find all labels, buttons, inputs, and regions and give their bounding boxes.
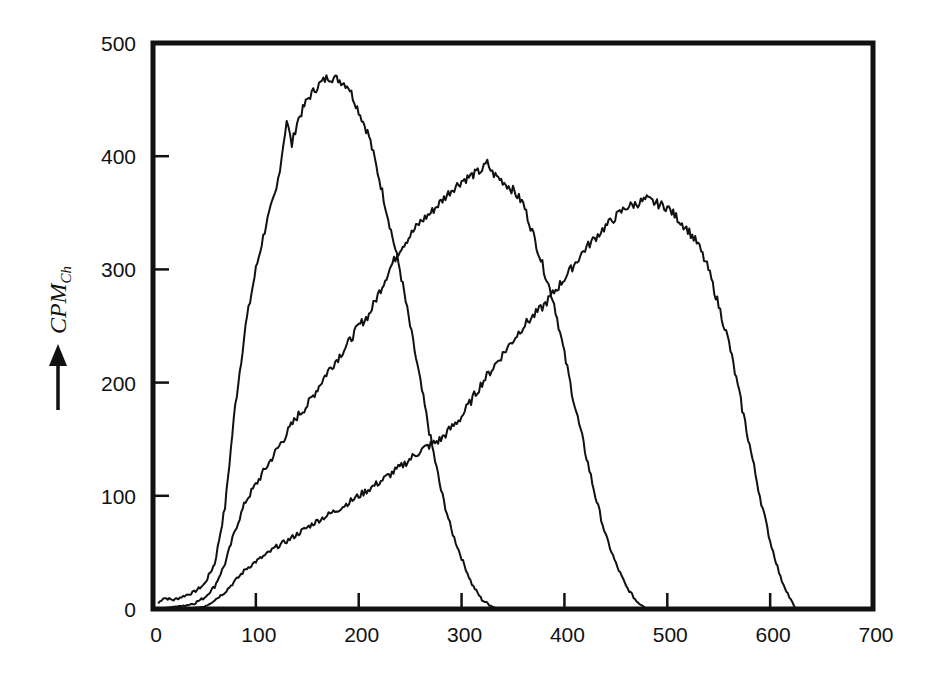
x-tick-label: 200 bbox=[344, 623, 379, 646]
y-tick-label: 300 bbox=[101, 258, 136, 281]
series-line-2 bbox=[158, 160, 647, 609]
y-axis-label-subscript: Ch bbox=[58, 266, 74, 284]
y-tick-label: 200 bbox=[101, 372, 136, 395]
chart: 0100200300400500600700 0100200300400500 … bbox=[0, 0, 937, 681]
y-axis-label: CPMCh bbox=[45, 266, 74, 334]
series-line-3 bbox=[158, 195, 796, 609]
plot-frame bbox=[153, 43, 873, 609]
svg-text:CPMCh: CPMCh bbox=[45, 266, 74, 334]
x-tick-label: 500 bbox=[653, 623, 688, 646]
y-axis-tick-labels: 0100200300400500 bbox=[101, 32, 136, 621]
x-tick-label: 600 bbox=[756, 623, 791, 646]
x-axis-tick-labels: 0100200300400500600700 bbox=[150, 623, 893, 646]
x-tick-label: 700 bbox=[858, 623, 893, 646]
y-tick-label: 500 bbox=[101, 32, 136, 55]
y-tick-label: 400 bbox=[101, 145, 136, 168]
up-arrow-icon bbox=[49, 344, 67, 410]
plot-lines bbox=[158, 75, 796, 609]
x-tick-label: 300 bbox=[447, 623, 482, 646]
y-tick-label: 0 bbox=[124, 598, 136, 621]
x-tick-label: 0 bbox=[150, 623, 162, 646]
y-tick-label: 100 bbox=[101, 485, 136, 508]
y-axis-label-text: CPM bbox=[45, 281, 71, 334]
x-tick-label: 100 bbox=[241, 623, 276, 646]
series-line-1 bbox=[158, 75, 498, 609]
x-tick-label: 400 bbox=[550, 623, 585, 646]
